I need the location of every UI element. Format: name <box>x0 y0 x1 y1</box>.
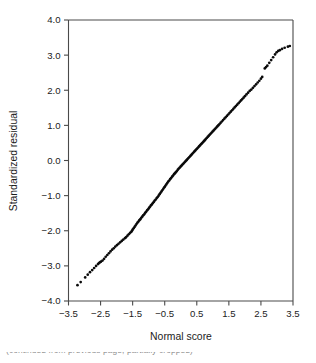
cropped-caption-text: (continued from previous page, partially… <box>6 352 310 355</box>
data-point <box>270 59 273 62</box>
data-point <box>93 267 96 270</box>
data-point <box>283 46 286 49</box>
qq-plot-canvas: −4.0−3.0−2.0−1.00.01.02.03.04.0 −3.5−2.5… <box>0 0 316 363</box>
data-point <box>79 281 82 284</box>
y-tick-label: 1.0 <box>47 120 60 131</box>
qq-plot-figure: −4.0−3.0−2.0−1.00.01.02.03.04.0 −3.5−2.5… <box>0 0 316 363</box>
y-tick-label: 3.0 <box>47 50 60 61</box>
y-tick-label: −2.0 <box>42 225 61 236</box>
y-tick-label: −1.0 <box>42 190 61 201</box>
y-tick-label: 4.0 <box>47 14 60 25</box>
data-point <box>91 269 94 272</box>
data-point <box>266 64 269 67</box>
x-tick-label: 3.5 <box>286 308 299 319</box>
y-tick-label: −3.0 <box>42 260 61 271</box>
data-point <box>279 49 282 52</box>
y-tick-label: −4.0 <box>42 295 61 306</box>
data-point <box>76 284 79 287</box>
data-point <box>288 45 291 48</box>
x-tick-label: −1.5 <box>123 308 142 319</box>
data-point <box>89 271 92 274</box>
x-tick-label: −2.5 <box>91 308 110 319</box>
data-point <box>272 56 275 59</box>
x-tick-label: −0.5 <box>155 308 174 319</box>
data-point <box>268 62 271 65</box>
y-tick-label: 2.0 <box>47 85 60 96</box>
cropped-caption-strip: (continued from previous page, partially… <box>0 352 316 363</box>
data-point <box>281 47 284 50</box>
x-axis-title: Normal score <box>150 331 212 342</box>
data-point <box>261 76 264 79</box>
y-tick-label: 0.0 <box>47 155 60 166</box>
x-tick-label: 2.5 <box>254 308 267 319</box>
data-point <box>84 276 87 279</box>
x-tick-label: 1.5 <box>222 308 235 319</box>
x-tick-label: 0.5 <box>190 308 203 319</box>
y-axis-title: Standardized residual <box>8 111 19 212</box>
data-point <box>86 273 89 276</box>
x-tick-label: −3.5 <box>59 308 78 319</box>
